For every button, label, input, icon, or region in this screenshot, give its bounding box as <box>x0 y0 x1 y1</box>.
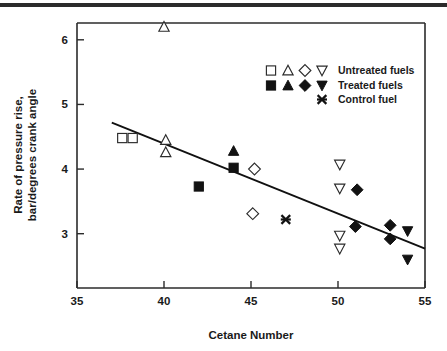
scatter-plot: 35404550553456 Untreated fuelsTreated fu… <box>0 0 447 351</box>
figure-container: 35404550553456 Untreated fuelsTreated fu… <box>0 0 447 351</box>
legend: Untreated fuelsTreated fuelsControl fuel <box>266 64 414 105</box>
y-tick-label: 4 <box>62 163 69 175</box>
marker-filled-triangle-down-legend <box>317 81 327 91</box>
marker-open-square-point <box>128 133 137 142</box>
marker-x-cross-legend <box>317 95 327 104</box>
marker-filled-diamond-legend <box>299 80 311 92</box>
x-tick-label: 55 <box>419 295 432 307</box>
x-tick-label: 50 <box>332 295 345 307</box>
legend-label: Control fuel <box>338 93 397 105</box>
marker-open-square-point <box>118 133 127 142</box>
marker-filled-triangle-down-point <box>402 255 412 265</box>
marker-filled-square-legend <box>266 81 275 90</box>
trend-line <box>112 123 425 249</box>
x-tick-label: 40 <box>158 295 171 307</box>
marker-open-triangle-down-legend <box>317 66 327 76</box>
y-tick-label: 5 <box>62 98 69 110</box>
marker-filled-square-point <box>229 163 238 172</box>
x-tick-label: 35 <box>71 295 84 307</box>
axes-frame <box>77 23 425 288</box>
marker-filled-diamond-point <box>384 219 396 231</box>
marker-filled-triangle-up-point <box>228 146 238 156</box>
marker-filled-triangle-up-legend <box>283 80 293 90</box>
legend-label: Untreated fuels <box>338 64 415 76</box>
y-tick-label: 6 <box>62 34 68 46</box>
y-axis-title-line2: bar/degrees crank angle <box>26 89 38 221</box>
legend-label: Treated fuels <box>338 79 403 91</box>
y-axis-title-line1: Rate of pressure rise, <box>12 96 24 214</box>
tick-marks <box>77 40 425 288</box>
data-markers <box>118 22 413 265</box>
marker-open-diamond-legend <box>299 65 311 77</box>
marker-filled-diamond-point <box>384 233 396 245</box>
y-tick-label: 3 <box>62 228 68 240</box>
marker-open-square-legend <box>266 66 275 75</box>
marker-open-triangle-down-point <box>335 184 345 194</box>
marker-filled-square-point <box>194 182 203 191</box>
marker-open-diamond-point <box>249 163 261 175</box>
marker-open-triangle-down-point <box>335 160 345 170</box>
marker-open-triangle-down-point <box>335 244 345 254</box>
x-axis-title: Cetane Number <box>209 329 295 341</box>
marker-filled-triangle-down-point <box>402 227 412 237</box>
trendline <box>112 123 425 249</box>
marker-open-triangle-up-point <box>161 147 171 157</box>
marker-filled-diamond-point <box>351 184 363 196</box>
marker-open-triangle-down-point <box>335 231 345 241</box>
marker-open-triangle-up-point <box>161 135 171 145</box>
marker-open-triangle-up-legend <box>283 65 293 75</box>
marker-open-diamond-point <box>247 208 259 220</box>
x-tick-label: 45 <box>245 295 258 307</box>
marker-x-cross-point <box>281 215 291 224</box>
